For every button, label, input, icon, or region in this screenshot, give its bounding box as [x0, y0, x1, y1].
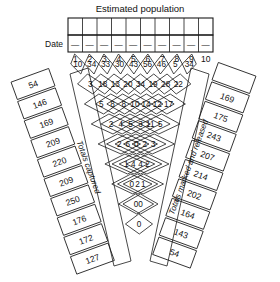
lattice-value[interactable]: 11: [146, 120, 155, 129]
cell-value: 250: [64, 194, 81, 208]
lattice-value[interactable]: 28: [161, 80, 171, 89]
cell-box: [212, 62, 256, 93]
lattice-value[interactable]: 2: [109, 120, 114, 129]
cell-value: 143: [173, 226, 190, 240]
lattice-value[interactable]: 0: [138, 200, 143, 209]
cell-value: 54: [168, 247, 181, 260]
cell-value: 175: [212, 110, 229, 124]
lattice-value[interactable]: 2: [117, 140, 122, 149]
left-band: Totals captured: [75, 139, 103, 195]
lattice-value[interactable]: 4: [138, 160, 143, 169]
totals-captured-cell[interactable]: 54: [11, 68, 55, 99]
cell-value: 209: [44, 135, 61, 149]
lattice-value[interactable]: 5: [99, 100, 104, 109]
lattice-value[interactable]: 2: [142, 140, 147, 149]
cell-value: 127: [84, 252, 101, 266]
lattice-value[interactable]: 13: [111, 80, 121, 89]
date-dash: —: [144, 41, 153, 50]
totals-captured-cell[interactable]: 169: [24, 107, 68, 138]
cell-value: 164: [179, 207, 196, 221]
totals-captured-cell[interactable]: 146: [18, 88, 62, 119]
date-dash: —: [129, 41, 138, 50]
lattice-value[interactable]: 6: [125, 140, 130, 149]
date-number[interactable]: 7: [160, 54, 165, 64]
totals-captured-cell[interactable]: 220: [37, 146, 81, 177]
lattice-value[interactable]: 5: [128, 120, 133, 129]
cell-value: 209: [58, 174, 75, 188]
totals-captured-cell[interactable]: 127: [70, 243, 114, 274]
date-dash: —: [202, 41, 211, 50]
right-band: Totals marked and released: [167, 118, 210, 216]
lattice-value[interactable]: 20: [123, 80, 133, 89]
totals-marked-released-cell[interactable]: [212, 62, 256, 93]
lattice-value[interactable]: 17: [164, 100, 174, 109]
cell-value: 172: [77, 232, 94, 246]
cell-value: 207: [199, 149, 216, 163]
page-title: Estimated population: [96, 3, 185, 14]
date-number[interactable]: 6: [145, 54, 150, 64]
lattice-value[interactable]: 4: [119, 120, 124, 129]
cell-value: 169: [38, 116, 55, 130]
date-number[interactable]: 5: [131, 54, 136, 64]
lattice-value[interactable]: 0: [137, 220, 142, 229]
cell-value: 169: [219, 91, 236, 105]
lattice-value[interactable]: 8: [121, 100, 126, 109]
totals-captured-cell[interactable]: 176: [57, 204, 101, 235]
cell-value: 176: [71, 213, 88, 227]
totals-captured-cell[interactable]: 209: [31, 127, 75, 158]
lattice-value[interactable]: 18: [98, 80, 108, 89]
date-dash: —: [86, 41, 95, 50]
cell-value: 214: [192, 168, 209, 182]
lattice-value[interactable]: 34: [136, 80, 146, 89]
date-number[interactable]: 2: [87, 54, 92, 64]
totals-marked-released-cell[interactable]: 169: [205, 82, 249, 113]
totals-captured-cell[interactable]: 209: [44, 165, 88, 196]
lattice-value[interactable]: 22: [174, 80, 184, 89]
lattice-value[interactable]: 12: [153, 100, 163, 109]
lattice-value[interactable]: 1: [141, 180, 146, 189]
date-dash: —: [158, 41, 167, 50]
lattice-value[interactable]: 3: [151, 140, 156, 149]
lattice-value[interactable]: 5: [158, 120, 163, 129]
totals-marked-released-cell[interactable]: 143: [159, 218, 203, 249]
date-dash: —: [173, 41, 182, 50]
date-number[interactable]: 3: [102, 54, 107, 64]
date-number[interactable]: 8: [174, 54, 179, 64]
left-band-label: Totals captured: [75, 139, 103, 195]
lattice-value[interactable]: 2: [135, 180, 140, 189]
date-dash: —: [71, 41, 80, 50]
cell-value: 146: [31, 97, 48, 111]
date-number[interactable]: 9: [189, 54, 194, 64]
lattice-value[interactable]: 0: [130, 180, 135, 189]
cell-value: 220: [51, 155, 68, 169]
date-number[interactable]: 1: [73, 54, 78, 64]
date-dash: —: [115, 41, 124, 50]
cell-value: 54: [27, 78, 40, 91]
lattice-value[interactable]: 0: [134, 140, 139, 149]
totals-captured-cell[interactable]: 250: [51, 185, 95, 216]
date-dash: —: [100, 41, 109, 50]
date-number[interactable]: 4: [116, 54, 121, 64]
lattice-value[interactable]: 14: [142, 100, 152, 109]
lattice-value[interactable]: 2: [145, 160, 150, 169]
lattice-value[interactable]: 1: [124, 160, 129, 169]
trellis-svg: Estimated population Date: [0, 0, 280, 282]
trellis-diagram: Estimated population Date: [0, 0, 280, 282]
lattice-value[interactable]: 3: [88, 80, 93, 89]
date-label: Date: [45, 39, 63, 49]
totals-captured-cell[interactable]: 172: [64, 224, 108, 255]
lattice-value[interactable]: 8: [110, 100, 115, 109]
lattice-value[interactable]: 3: [138, 120, 143, 129]
date-number[interactable]: 10: [201, 54, 211, 64]
cell-value: 202: [186, 188, 203, 202]
lattice-value[interactable]: 4: [131, 160, 136, 169]
right-band-label: Totals marked and released: [167, 118, 210, 216]
lattice-value[interactable]: 19: [149, 80, 159, 89]
lattice-value[interactable]: 10: [130, 100, 140, 109]
cell-value: 243: [206, 129, 223, 143]
totals-marked-released-column: 16917524320721420216414354: [153, 62, 256, 268]
date-dash: —: [187, 41, 196, 50]
